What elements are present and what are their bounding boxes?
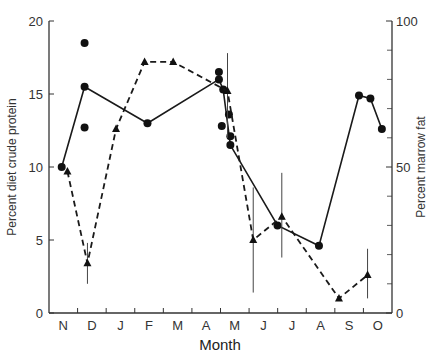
x-tick-label: O	[373, 318, 383, 333]
x-tick-label: J	[260, 318, 267, 333]
triangle-marker	[83, 259, 91, 267]
x-tick-label: D	[87, 318, 96, 333]
triangle-marker	[141, 57, 149, 64]
circle-marker-extra	[215, 68, 223, 76]
axes: 05101520050100NDJFMAMJJASO	[29, 14, 418, 333]
circle-marker	[378, 125, 386, 133]
x-tick-label: N	[59, 318, 68, 333]
x-axis-title: Month	[199, 336, 241, 353]
y-tick-label-left: 5	[36, 233, 43, 248]
circle-marker-extra	[81, 124, 89, 132]
x-tick-label: A	[202, 318, 211, 333]
circle-marker	[81, 83, 89, 91]
circle-marker	[143, 119, 151, 127]
x-tick-label: M	[172, 318, 183, 333]
marrow-fat-line	[67, 62, 367, 299]
y-tick-label-right: 0	[396, 306, 403, 321]
circle-marker	[315, 242, 323, 250]
circle-marker	[226, 141, 234, 149]
y-tick-label-left: 10	[29, 160, 43, 175]
triangle-marker	[364, 271, 372, 279]
x-tick-label: J	[289, 318, 296, 333]
y-tick-label-right: 100	[396, 14, 418, 29]
series-layer	[58, 39, 386, 302]
y-tick-label-left: 15	[29, 87, 43, 102]
crude-protein-line	[62, 79, 382, 245]
circle-marker	[58, 163, 66, 171]
x-tick-label: A	[316, 318, 325, 333]
circle-marker-extra	[218, 122, 226, 130]
triangle-marker	[278, 212, 286, 220]
x-tick-label: F	[145, 318, 153, 333]
y-axis-left-title: Percent diet crude protein	[5, 98, 19, 235]
triangle-marker	[112, 125, 120, 132]
chart: 05101520050100NDJFMAMJJASO Month Percent…	[0, 0, 435, 360]
x-tick-label: M	[229, 318, 240, 333]
circle-marker-extra	[81, 39, 89, 47]
x-tick-label: S	[345, 318, 354, 333]
triangle-marker	[335, 294, 343, 302]
y-tick-label-left: 20	[29, 14, 43, 29]
y-axis-right-title: Percent marrow fat	[414, 116, 428, 218]
circle-marker	[355, 91, 363, 99]
circle-marker	[366, 94, 374, 102]
circle-marker	[215, 75, 223, 83]
x-tick-label: J	[117, 318, 124, 333]
y-tick-label-left: 0	[36, 306, 43, 321]
y-tick-label-right: 50	[396, 160, 410, 175]
